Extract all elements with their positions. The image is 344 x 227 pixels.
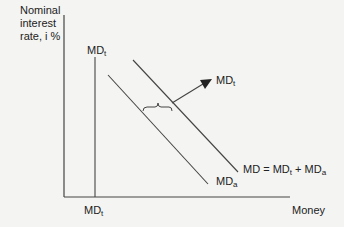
md-t-arrow-label: MDt — [216, 74, 235, 90]
md-t-pointer-arrow — [172, 84, 203, 103]
arrowhead-icon — [200, 79, 212, 89]
y-axis-label-line1: Nominal — [20, 4, 66, 17]
y-axis-label-line3: rate, i % — [20, 30, 66, 43]
x-axis-label: Money — [292, 204, 325, 217]
md-a-label: MDa — [216, 175, 238, 191]
money-demand-diagram: Nominal interest rate, i % MDt MDt MD = … — [0, 0, 344, 227]
y-axis-label: Nominal interest rate, i % — [20, 4, 66, 43]
md-t-top-label: MDt — [87, 44, 106, 60]
md-t-axis-label: MDt — [84, 204, 103, 220]
horizontal-gap-brace — [143, 103, 172, 111]
md-a-curve — [108, 75, 208, 184]
md-total-label: MD = MDt + MDa — [243, 163, 326, 179]
y-axis-label-line2: interest — [20, 17, 66, 30]
